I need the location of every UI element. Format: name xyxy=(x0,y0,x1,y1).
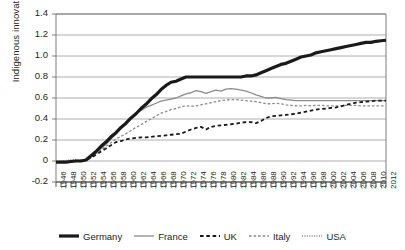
legend-label: Germany xyxy=(83,231,122,242)
series-line-uk xyxy=(56,101,386,162)
chart-legend: GermanyFranceUKItalyUSA xyxy=(0,228,405,244)
legend-swatch-usa xyxy=(302,231,322,241)
legend-swatch-france xyxy=(134,231,154,241)
legend-swatch-italy xyxy=(249,231,269,241)
plot-area xyxy=(0,0,405,250)
chart-container: Indigenous innovation 1.41.21.00.80.60.4… xyxy=(0,0,405,250)
legend-item-italy[interactable]: Italy xyxy=(249,231,290,242)
legend-item-france[interactable]: France xyxy=(134,231,188,242)
legend-label: UK xyxy=(224,231,237,242)
legend-label: USA xyxy=(326,231,346,242)
legend-swatch-germany xyxy=(59,231,79,241)
legend-swatch-uk xyxy=(200,231,220,241)
legend-item-usa[interactable]: USA xyxy=(302,231,346,242)
legend-label: Italy xyxy=(273,231,290,242)
legend-item-germany[interactable]: Germany xyxy=(59,231,122,242)
legend-label: France xyxy=(158,231,188,242)
series-line-italy xyxy=(56,100,386,162)
legend-item-uk[interactable]: UK xyxy=(200,231,237,242)
